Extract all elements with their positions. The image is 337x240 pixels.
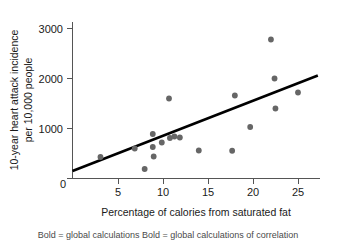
- y-tick-label-1000: 1000: [39, 123, 63, 135]
- y-axis-ticks: [67, 29, 73, 179]
- y-axis-title-line-1: 10-year heart attack incidence: [8, 30, 20, 171]
- y-tick-label-2000: 2000: [39, 73, 63, 85]
- data-point: [132, 146, 138, 152]
- data-point: [98, 154, 104, 160]
- data-point: [177, 135, 183, 141]
- y-axis-tick-labels: 3000 2000 1000 0: [39, 23, 67, 191]
- data-point: [196, 148, 202, 154]
- y-tick-label-3000: 3000: [39, 23, 63, 35]
- data-point: [150, 131, 156, 137]
- x-tick-label-20: 20: [247, 186, 259, 198]
- data-point: [159, 140, 165, 146]
- x-tick-label-5: 5: [115, 186, 121, 198]
- x-tick-label-15: 15: [202, 186, 214, 198]
- x-tick-label-25: 25: [292, 186, 304, 198]
- data-point: [247, 124, 253, 130]
- data-point: [232, 93, 238, 99]
- data-point: [272, 76, 278, 82]
- chart-figure: 3000 2000 1000 0 5 10 15 20 25 Percentag…: [0, 0, 337, 240]
- figure-caption: Bold = global calculations Bold = global…: [38, 230, 299, 240]
- regression-trend-line: [73, 76, 318, 172]
- data-points-group: [98, 37, 301, 172]
- data-point: [151, 154, 157, 160]
- x-axis-ticks: [118, 179, 298, 185]
- y-tick-label-0: 0: [60, 178, 66, 190]
- data-point: [142, 166, 148, 172]
- data-point: [166, 96, 172, 102]
- x-axis-title: Percentage of calories from saturated fa…: [101, 206, 291, 218]
- data-point: [229, 148, 235, 154]
- x-tick-label-10: 10: [157, 186, 169, 198]
- data-point: [150, 144, 156, 150]
- x-axis-tick-labels: 5 10 15 20 25: [115, 186, 304, 198]
- y-axis-title-line-2: per 10,000 people: [22, 58, 34, 143]
- data-point: [268, 37, 274, 43]
- data-point: [172, 134, 178, 140]
- data-point: [295, 90, 301, 96]
- scatter-plot: 3000 2000 1000 0 5 10 15 20 25 Percentag…: [0, 0, 337, 240]
- data-point: [273, 106, 279, 112]
